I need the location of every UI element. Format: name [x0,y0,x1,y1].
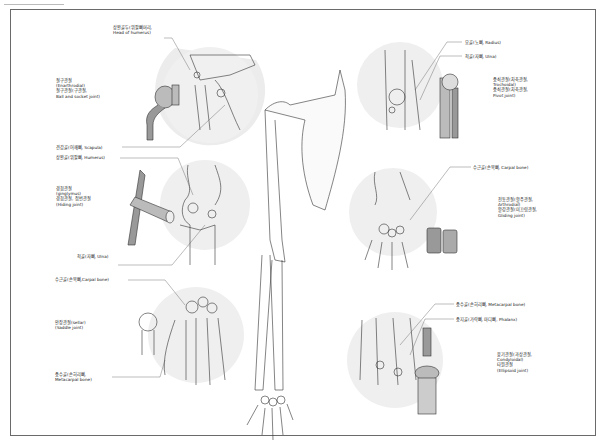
label-line: 상완골(위팔뼈, Humerus) [56,155,105,160]
gliding-model [427,228,457,253]
pivot-detail-circle [357,42,443,130]
label-ulna-right: 척골(자뼈, Ulna) [465,54,496,59]
label-line: Gliding joint) [498,213,537,218]
label-line: 중지골(가락뼈, 마디뼈, Phalanx) [456,317,517,322]
label-gliding-joint: 전동관절(활주관절, Arthrodial) 활강관절(미끄럼관절, Glidi… [498,197,537,218]
arm-skeleton [247,70,345,440]
label-carpal-left: 수근골(손목뼈,Carpal bone) [55,277,109,282]
label-line: Metacarpal bone) [55,377,92,382]
label-line: 경첩관절, 접번관절 [56,196,91,201]
label-line: 수근골(손목뼈, Carpal bone) [473,165,528,170]
label-line: Pivot joint) [493,93,528,98]
label-scapula: 견갑골(어깨뼈, Scapula) [56,145,103,150]
label-carpal-right: 수근골(손목뼈, Carpal bone) [473,165,528,170]
label-phalanx: 중지골(가락뼈, 마디뼈, Phalanx) [456,317,517,322]
label-humerus: 상완골(위팔뼈, Humerus) [56,155,105,160]
label-line: 중쇠관절(차축관절, [493,87,528,92]
label-hinge-joint: 경첩관절 (ginglymus) 경첩관절, 접번관절 (Hiding join… [56,186,91,207]
label-radius: 요골(노뼈, Radius) [465,40,501,45]
label-line: 척골(자뼈, Ulna) [77,254,108,259]
label-ulna-left: 척골(자뼈, Ulna) [77,254,108,259]
label-line: 활강관절(미끄럼관절, [498,207,537,212]
elbow-detail-circle [160,160,250,265]
wrist-detail-circle [349,168,437,270]
pivot-model [440,74,458,138]
label-line: (Ellipsoid joint) [497,368,532,373]
label-line: 요골(노뼈, Radius) [465,40,501,45]
label-line: 척골(자뼈, Ulna) [465,54,496,59]
label-saddle-joint: 안장관절(sellar) (Saddle joint) [55,320,86,330]
label-line: (Saddle joint) [55,325,86,330]
label-line: Head of humerus) [113,30,152,35]
label-metacarpal-left: 중수골(손허리뼈, Metacarpal bone) [55,372,92,382]
label-line: Ball and socket joint) [56,94,100,99]
label-ball-socket-joint: 절구관절 (Enarthrodial) 절구관절(구관절, Ball and s… [56,78,100,99]
hand-detail-circle [148,287,244,385]
label-line: 중수골(손허리뼈, Metacarpal bone) [456,302,525,307]
label-pivot-joint: 중쇠관절(차축관절, Trochoidal) 중쇠관절(차축관절, Pivot … [493,77,528,98]
label-head-of-humerus: 상완골두(위팔뼈머리, Head of humerus) [113,25,152,35]
label-line: 견갑골(어깨뼈, Scapula) [56,145,103,150]
label-line: 수근골(손목뼈,Carpal bone) [55,277,109,282]
label-ellipsoid-joint: 융기관절(과상관절, Condyloidal) 타원관절 (Ellipsoid … [497,352,532,373]
label-metacarpal-right: 중수골(손허리뼈, Metacarpal bone) [456,302,525,307]
label-line: (Hiding joint) [56,202,91,207]
